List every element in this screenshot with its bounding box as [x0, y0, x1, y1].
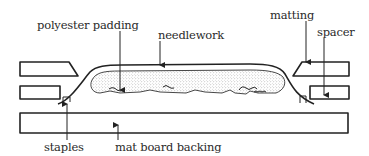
label-spacer: spacer [317, 25, 355, 39]
label-polyester-padding: polyester padding [37, 18, 140, 32]
label-matting: matting [270, 8, 315, 22]
matting-left [20, 62, 78, 76]
label-staples: staples [44, 140, 84, 154]
framing-cross-section-diagram: polyester padding needlework matting spa… [0, 0, 369, 156]
matting-right [293, 62, 349, 76]
mat-board-backing [20, 113, 348, 133]
spacer-left [20, 86, 60, 99]
label-needlework: needlework [158, 28, 225, 42]
spacer-right [310, 86, 349, 99]
label-mat-board-backing: mat board backing [115, 140, 222, 154]
